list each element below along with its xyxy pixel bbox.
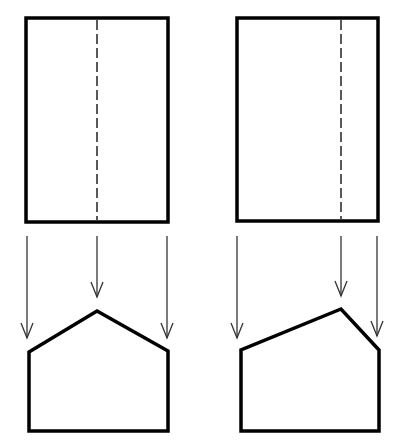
projection-arrow-icon <box>231 236 243 338</box>
projection-diagram <box>0 0 395 445</box>
front-view-pentagon <box>29 311 168 431</box>
front-view-pentagon <box>241 309 379 431</box>
view-left <box>21 18 173 431</box>
projection-arrow-icon <box>335 236 347 296</box>
top-view-rect <box>237 18 378 221</box>
diagram-canvas <box>0 0 395 445</box>
projection-arrow-icon <box>371 236 383 336</box>
projection-arrow-icon <box>21 236 33 338</box>
projection-arrow-icon <box>91 236 103 297</box>
view-right <box>231 18 383 431</box>
projection-arrow-icon <box>161 236 173 338</box>
